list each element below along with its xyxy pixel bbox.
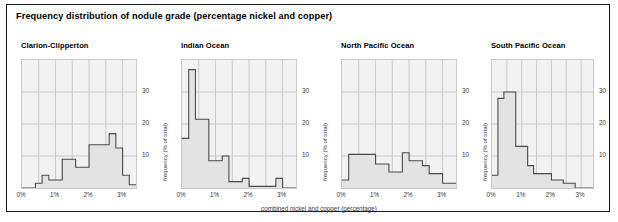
panel-clarion-clipperton: Clarion-Clipperton 102030frequency (% of… [21, 41, 171, 207]
y-axis-labels: 102030frequency (% of total) [459, 59, 493, 189]
y-axis-caption: frequency (% of total) [321, 123, 328, 181]
y-axis-tick: 20 [599, 119, 606, 126]
y-axis-tick: 30 [302, 87, 309, 94]
x-axis-tick: 0% [486, 191, 495, 198]
y-axis-tick: 20 [142, 119, 149, 126]
panel-north-pacific-ocean: North Pacific Ocean 102030frequency (% o… [341, 41, 491, 207]
x-axis-tick: 0% [16, 191, 25, 198]
x-axis-tick: 0% [176, 191, 185, 198]
plot-area [21, 59, 137, 189]
x-axis-tick: 3% [277, 191, 286, 198]
x-axis-tick: 2% [83, 191, 92, 198]
x-axis-caption: combined nickel and copper (percentage) [261, 205, 377, 212]
panel-title: South Pacific Ocean [491, 41, 565, 50]
x-axis-tick: 3% [117, 191, 126, 198]
x-axis-tick: 2% [243, 191, 252, 198]
y-axis-tick: 10 [302, 151, 309, 158]
plot-area [341, 59, 457, 189]
y-axis-tick: 20 [302, 119, 309, 126]
y-axis-tick: 10 [462, 151, 469, 158]
x-axis-tick: 1% [516, 191, 525, 198]
panel-title: North Pacific Ocean [341, 41, 414, 50]
figure-container: Frequency distribution of nodule grade (… [6, 4, 610, 212]
x-axis-tick: 3% [576, 191, 585, 198]
x-axis-tick: 2% [403, 191, 412, 198]
y-axis-tick: 30 [142, 87, 149, 94]
y-axis-caption: frequency (% of total) [161, 123, 168, 181]
x-axis-tick: 1% [50, 191, 59, 198]
x-axis-tick: 3% [437, 191, 446, 198]
panel-south-pacific-ocean: South Pacific Ocean 102030frequency (% o… [491, 41, 615, 207]
panel-title: Clarion-Clipperton [21, 41, 89, 50]
y-axis-tick: 10 [142, 151, 149, 158]
plot-area [491, 59, 594, 189]
y-axis-tick: 30 [462, 87, 469, 94]
y-axis-tick: 10 [599, 151, 606, 158]
x-axis-labels: 0%1%2%3% [21, 191, 137, 203]
y-axis-labels: 102030frequency (% of total) [299, 59, 333, 189]
y-axis-labels: 102030frequency (% of total) [596, 59, 618, 189]
y-axis-labels: 102030frequency (% of total) [139, 59, 173, 189]
y-axis-tick: 20 [462, 119, 469, 126]
figure-title: Frequency distribution of nodule grade (… [16, 11, 332, 21]
panel-title: Indian Ocean [181, 41, 229, 50]
y-axis-tick: 30 [599, 87, 606, 94]
plot-area [181, 59, 297, 189]
x-axis-labels: 0%1%2%3% [341, 191, 457, 203]
panel-indian-ocean: Indian Ocean 102030frequency (% of total… [181, 41, 331, 207]
x-axis-tick: 1% [210, 191, 219, 198]
x-axis-labels: 0%1%2%3% [491, 191, 594, 203]
x-axis-labels: 0%1%2%3% [181, 191, 297, 203]
x-axis-tick: 0% [336, 191, 345, 198]
x-axis-tick: 2% [546, 191, 555, 198]
y-axis-caption: frequency (% of total) [481, 123, 488, 181]
x-axis-tick: 1% [370, 191, 379, 198]
